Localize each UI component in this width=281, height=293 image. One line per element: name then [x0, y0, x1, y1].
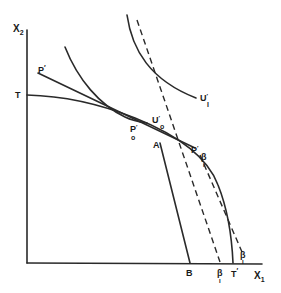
label-p0-prime: P′ — [130, 124, 138, 134]
label-beta1-upper: β — [201, 152, 207, 162]
label-b: B — [186, 268, 193, 278]
label-a: A — [153, 140, 160, 150]
x-axis-label: X1 — [254, 270, 265, 283]
label-t: T — [15, 90, 21, 100]
label-t-prime: T′ — [231, 267, 239, 279]
line-a-to-b — [160, 143, 190, 263]
y-axis-label: X2 — [13, 23, 24, 36]
production-frontier-curve — [27, 95, 233, 263]
label-beta1-axis-sub: I — [219, 278, 221, 284]
indifference-curve-u0 — [65, 47, 147, 123]
label-beta1-axis: β — [217, 268, 223, 278]
label-u1-sub: I — [207, 101, 209, 108]
x-axis — [27, 263, 262, 264]
dashed-line-beta1-segment — [200, 155, 242, 252]
label-p-prime: P′ — [38, 64, 46, 75]
label-u0-sub: o — [160, 123, 164, 130]
price-line-p-prime — [38, 73, 195, 148]
indifference-curve-u1 — [127, 15, 196, 98]
label-p0-sub: o — [131, 134, 135, 141]
label-p1-prime: P′ — [191, 145, 199, 155]
diagram-canvas: X2 X1 T T′ P′ P′ o P′ U′ o U′ I A B β I … — [0, 0, 281, 293]
